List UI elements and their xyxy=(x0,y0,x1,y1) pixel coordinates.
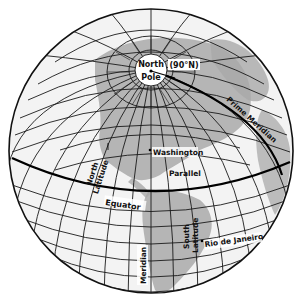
north-pole-degrees: (90°N) xyxy=(169,61,198,70)
north-pole-label: North xyxy=(138,60,164,69)
meridian-label: Meridian xyxy=(139,247,148,284)
globe-diagram: North Pole (90°N) Prime Meridian Washing… xyxy=(0,0,300,304)
washington-label: Washington xyxy=(153,148,203,157)
north-pole-label-2: Pole xyxy=(141,73,161,82)
svg-text:South: South xyxy=(182,224,191,249)
svg-text:Latitude: Latitude xyxy=(191,218,200,253)
rio-dot xyxy=(201,240,204,243)
parallel-label: Parallel xyxy=(169,169,201,178)
washington-dot xyxy=(149,149,152,152)
